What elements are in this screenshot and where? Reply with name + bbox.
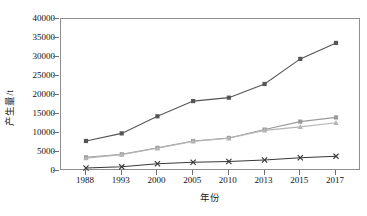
- y-axis-title-label: 产生量/t: [2, 90, 16, 126]
- series-line: [86, 156, 336, 168]
- x-tick-label: 1993: [112, 176, 130, 185]
- data-point-marker: [334, 115, 338, 119]
- plot-svg: [61, 19, 361, 171]
- x-tick-label: 2015: [290, 176, 308, 185]
- x-tick-mark: [85, 170, 86, 175]
- x-tick-label: 2010: [219, 176, 237, 185]
- data-point-marker: [227, 96, 231, 100]
- x-tick-mark: [192, 170, 193, 175]
- data-point-marker: [120, 131, 124, 135]
- y-tick-label: 15000: [33, 109, 56, 118]
- x-tick-label: 2000: [147, 176, 165, 185]
- y-tick-label: 20000: [33, 90, 56, 99]
- data-point-marker: [334, 41, 338, 45]
- y-tick-label: 10000: [33, 128, 56, 137]
- x-tick-mark: [299, 170, 300, 175]
- y-tick-mark: [53, 37, 59, 38]
- y-tick-mark: [53, 94, 59, 95]
- x-tick-mark: [264, 170, 265, 175]
- x-axis-title: 年份: [60, 190, 360, 204]
- x-axis-title-label: 年份: [200, 193, 220, 203]
- data-point-marker: [298, 57, 302, 61]
- x-tick-mark: [156, 170, 157, 175]
- data-point-marker: [298, 120, 302, 124]
- y-tick-label: 30000: [33, 52, 56, 61]
- line-chart: 产生量/t 0500010000150002000025000300003500…: [0, 0, 367, 216]
- x-tick-label: 2013: [255, 176, 273, 185]
- y-axis-tick-labels: 0500010000150002000025000300003500040000: [16, 0, 58, 216]
- y-tick-mark: [53, 113, 59, 114]
- x-tick-label: 2005: [183, 176, 201, 185]
- y-tick-label: 40000: [33, 14, 56, 23]
- y-tick-label: 35000: [33, 33, 56, 42]
- x-tick-mark: [121, 170, 122, 175]
- x-tick-mark: [335, 170, 336, 175]
- y-tick-mark: [53, 56, 59, 57]
- x-tick-mark: [228, 170, 229, 175]
- data-point-marker: [84, 139, 88, 143]
- y-tick-mark: [53, 151, 59, 152]
- y-tick-mark: [53, 170, 59, 171]
- x-tick-label: 2017: [326, 176, 344, 185]
- series-series-3: [83, 120, 338, 160]
- y-tick-mark: [53, 132, 59, 133]
- data-point-marker: [155, 114, 159, 118]
- data-point-marker: [262, 82, 266, 86]
- y-tick-label: 25000: [33, 71, 56, 80]
- x-tick-label: 1988: [76, 176, 94, 185]
- data-point-marker: [191, 99, 195, 103]
- plot-area: [60, 18, 360, 170]
- y-tick-mark: [53, 18, 59, 19]
- y-tick-mark: [53, 75, 59, 76]
